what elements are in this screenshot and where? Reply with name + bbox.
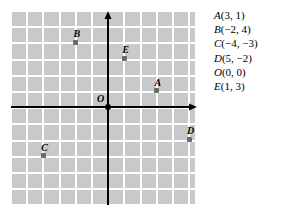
coordinate-item-b: B(−2, 4) xyxy=(214,22,284,36)
point-label-o: O xyxy=(97,94,104,104)
y-axis-arrowhead-icon xyxy=(105,11,112,19)
point-marker-b xyxy=(73,40,78,45)
x-axis-arrowhead-icon xyxy=(189,104,197,111)
point-marker-o xyxy=(105,104,111,110)
axes-layer xyxy=(11,11,196,205)
coordinate-item-values: (−2, 4) xyxy=(221,23,251,35)
coordinate-item-values: (−4, −3) xyxy=(221,37,257,49)
coordinate-item-a: A(3, 1) xyxy=(214,8,284,22)
coordinate-item-values: (3, 1) xyxy=(221,9,245,21)
point-label-c: C xyxy=(41,143,48,153)
point-label-e: E xyxy=(122,45,129,55)
coordinate-item-o: O(0, 0) xyxy=(214,65,284,79)
figure-page: ABCDOE A(3, 1)B(−2, 4)C(−4, −3)D(5, −2)O… xyxy=(0,0,285,216)
coordinate-item-values: (1, 3) xyxy=(221,80,245,92)
coordinate-item-values: (0, 0) xyxy=(222,66,246,78)
point-marker-d xyxy=(187,137,192,142)
coordinate-item-d: D(5, −2) xyxy=(214,51,284,65)
coordinate-item-name: E xyxy=(214,80,221,92)
point-label-d: D xyxy=(187,126,194,136)
point-label-b: B xyxy=(74,29,81,39)
coordinate-item-c: C(−4, −3) xyxy=(214,36,284,50)
point-marker-a xyxy=(154,88,159,93)
coordinate-item-name: D xyxy=(214,52,222,64)
coordinate-item-name: O xyxy=(214,66,222,78)
coordinate-item-name: B xyxy=(214,23,221,35)
point-label-a: A xyxy=(155,78,162,88)
point-marker-e xyxy=(122,56,127,61)
coordinate-list: A(3, 1)B(−2, 4)C(−4, −3)D(5, −2)O(0, 0)E… xyxy=(214,8,284,93)
coordinate-item-values: (5, −2) xyxy=(222,52,252,64)
coordinate-item-e: E(1, 3) xyxy=(214,79,284,93)
point-marker-c xyxy=(41,153,46,158)
coordinate-plane: ABCDOE xyxy=(11,11,196,205)
coordinate-item-name: A xyxy=(214,9,221,21)
